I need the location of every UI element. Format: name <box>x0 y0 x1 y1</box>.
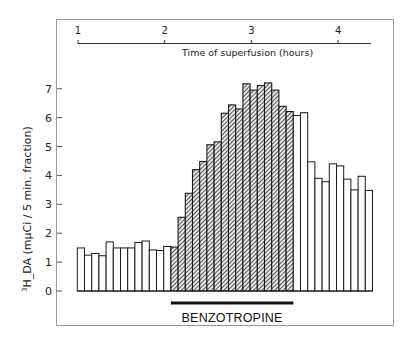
y-axis-title: 3H_DA (mµCi / 5 min. fraction) <box>21 126 34 292</box>
bar <box>135 242 142 291</box>
y-tick-label: 1 <box>45 256 52 269</box>
bar <box>85 255 92 291</box>
bar <box>149 250 156 291</box>
top-time-axis: 1234 Time of superfusion (hours) <box>75 25 371 58</box>
bar-hatched <box>207 145 214 291</box>
bar <box>337 166 344 291</box>
y-axis-ticks: 01234567 <box>45 83 62 298</box>
bar <box>301 113 308 291</box>
bar-hatched <box>214 142 221 291</box>
chart: 1234 Time of superfusion (hours) 0123456… <box>0 0 409 342</box>
bar-hatched <box>243 84 250 291</box>
top-tick-label: 1 <box>75 25 81 36</box>
y-tick-label: 7 <box>45 83 52 96</box>
bar <box>99 256 106 291</box>
bar-hatched <box>257 86 264 291</box>
y-tick-label: 0 <box>45 285 52 298</box>
y-axis-title-main: H_DA (mµCi / 5 min. fraction) <box>21 126 34 287</box>
bar <box>113 248 120 291</box>
top-tick-label: 3 <box>248 25 254 36</box>
bar <box>157 251 164 291</box>
bar-hatched <box>236 109 243 291</box>
bar-hatched <box>171 247 178 291</box>
top-tick-label: 2 <box>162 25 168 36</box>
bar <box>365 190 372 291</box>
y-tick-label: 2 <box>45 227 52 240</box>
treatment-annotation: BENZOTROPINE <box>171 303 293 325</box>
bar <box>315 178 322 291</box>
top-tick-label: 4 <box>335 25 341 36</box>
bar-hatched <box>229 105 236 291</box>
y-tick-label: 4 <box>45 169 52 182</box>
y-axis: 01234567 3H_DA (mµCi / 5 min. fraction) <box>21 83 62 298</box>
bar-series <box>77 83 372 291</box>
y-tick-label: 3 <box>45 198 52 211</box>
bar <box>329 164 336 291</box>
bar <box>351 190 358 291</box>
bar <box>128 248 135 291</box>
treatment-label: BENZOTROPINE <box>182 311 283 325</box>
bar-hatched <box>200 162 207 291</box>
bar-hatched <box>178 217 185 291</box>
y-tick-label: 5 <box>45 141 52 154</box>
bar-hatched <box>221 113 228 291</box>
bar-hatched <box>286 112 293 291</box>
bar <box>164 246 171 291</box>
bar <box>358 176 365 291</box>
bar <box>92 253 99 291</box>
bar-hatched <box>250 90 257 291</box>
bar <box>142 241 149 291</box>
bar <box>293 116 300 291</box>
bar <box>77 248 84 291</box>
bar-hatched <box>185 193 192 291</box>
bar <box>121 248 128 291</box>
y-tick-label: 6 <box>45 112 52 125</box>
bar <box>322 182 329 291</box>
top-axis-ticks: 1234 <box>75 25 341 44</box>
bar-hatched <box>265 83 272 291</box>
bar-hatched <box>193 170 200 291</box>
bar <box>106 242 113 291</box>
bar <box>308 162 315 291</box>
bar-hatched <box>279 106 286 291</box>
bar <box>344 179 351 291</box>
bar-hatched <box>272 90 279 291</box>
x-axis-title: Time of superfusion (hours) <box>181 47 313 58</box>
